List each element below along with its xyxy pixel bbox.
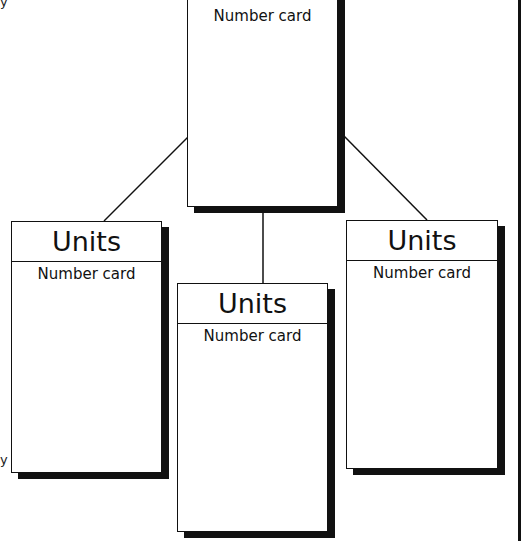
page-border-right [518, 0, 521, 541]
root-number-card: Number card [187, 0, 338, 207]
units-card-right: Units Number card [346, 220, 498, 469]
units-card-title: Units [12, 222, 161, 262]
root-card-label: Number card [188, 5, 337, 27]
units-card-title: Units [347, 221, 497, 261]
units-card-label: Number card [12, 263, 161, 285]
units-card-label: Number card [347, 262, 497, 284]
edge-glyph-top-left: y [0, 0, 8, 9]
units-card-label: Number card [178, 325, 327, 347]
connector-root-to-left [104, 137, 188, 221]
units-card-title: Units [178, 284, 327, 324]
units-card-left: Units Number card [11, 221, 162, 473]
edge-glyph-bottom-left: y [0, 452, 8, 467]
connector-root-to-right [344, 136, 427, 220]
units-card-middle: Units Number card [177, 283, 328, 532]
